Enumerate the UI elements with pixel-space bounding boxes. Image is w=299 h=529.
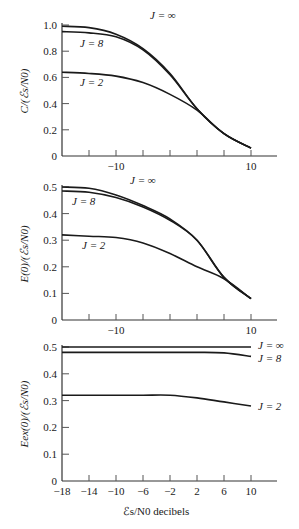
label-j-2-bot: J = 2 — [258, 400, 282, 412]
x-tick-label: −10 — [107, 160, 125, 172]
x-tick-label: 10 — [246, 324, 258, 336]
y-tick-label: 0.3 — [43, 395, 57, 407]
y-tick-label: 0 — [52, 150, 58, 162]
y-tick-label: 0.4 — [43, 98, 57, 110]
y-tick-label: 0 — [52, 314, 58, 326]
x-tick-label: 2 — [194, 485, 200, 497]
x-tick-label: −18 — [53, 485, 71, 497]
y-tick-label: 0.4 — [43, 368, 57, 380]
figure: 00.20.40.60.81.0−1010 00.10.20.30.40.5−1… — [0, 0, 299, 529]
curve-j8 — [62, 352, 251, 356]
panel-bottom-expurgated-exponent: 00.10.20.30.40.5−18−14−10−6−22610 — [43, 341, 277, 497]
curve-j8 — [62, 32, 251, 149]
y-axis-title-middle: E(0)/(ℰs/N0) — [18, 225, 31, 283]
x-tick-label: −10 — [107, 485, 125, 497]
label-j-8-top: J = 8 — [80, 37, 104, 49]
label-j-inf-bot: J = ∞ — [258, 339, 284, 351]
y-tick-label: 0.6 — [43, 71, 57, 83]
x-tick-label: 10 — [246, 485, 258, 497]
y-tick-label: 0.3 — [43, 234, 57, 246]
x-tick-label: 10 — [246, 160, 258, 172]
label-j-8-bot: J = 8 — [258, 352, 282, 364]
y-tick-label: 0.5 — [43, 181, 57, 193]
y-tick-label: 0.1 — [43, 448, 57, 460]
y-tick-label: 1.0 — [43, 19, 57, 31]
y-axis-title-top: C/(ℰs/N0) — [18, 68, 31, 113]
y-tick-label: 0.5 — [43, 341, 57, 353]
y-axis-title-bottom: Eex(0)/(ℰs/N0) — [18, 380, 31, 448]
y-tick-label: 0.4 — [43, 208, 57, 220]
y-tick-label: 0.2 — [43, 124, 57, 136]
y-tick-label: 0.8 — [43, 45, 57, 57]
panel-top-capacity: 00.20.40.60.81.0−1010 — [43, 19, 277, 172]
y-tick-label: 0.2 — [43, 261, 57, 273]
y-tick-label: 0.1 — [43, 287, 57, 299]
label-j-inf-top: J = ∞ — [150, 9, 176, 21]
x-tick-label: −2 — [164, 485, 176, 497]
y-tick-label: 0.2 — [43, 421, 57, 433]
x-tick-label: −14 — [80, 485, 98, 497]
chart-svg: 00.20.40.60.81.0−1010 00.10.20.30.40.5−1… — [0, 0, 299, 529]
x-tick-label: −6 — [137, 485, 149, 497]
x-tick-label: 6 — [221, 485, 227, 497]
x-axis-title: ℰs/N0 decibels — [123, 505, 190, 517]
curve-j2 — [62, 395, 251, 406]
x-tick-label: −10 — [107, 324, 125, 336]
label-j-2-top: J = 2 — [80, 76, 104, 88]
label-j-inf-mid: J = ∞ — [130, 174, 156, 186]
label-j-8-mid: J = 8 — [72, 195, 96, 207]
label-j-2-mid: J = 2 — [82, 239, 106, 251]
